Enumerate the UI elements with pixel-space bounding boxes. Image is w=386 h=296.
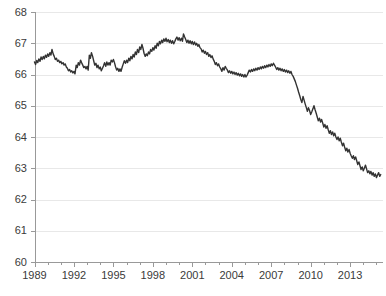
y-tick-label: 65 [1, 100, 27, 111]
x-tick-label: 2007 [251, 270, 291, 281]
y-tick-label: 68 [1, 7, 27, 18]
gridlines [35, 13, 384, 232]
x-tick-label: 2013 [330, 270, 370, 281]
y-tick-label: 62 [1, 194, 27, 205]
y-tick-label: 67 [1, 38, 27, 49]
y-tick-label: 63 [1, 163, 27, 174]
y-tick-label: 64 [1, 132, 27, 143]
data-series-line [35, 34, 381, 178]
y-tick-label: 60 [1, 257, 27, 268]
x-tick-label: 2004 [212, 270, 252, 281]
y-tick-label: 66 [1, 69, 27, 80]
y-major-ticks [31, 13, 35, 263]
x-tick-label: 1998 [133, 270, 173, 281]
x-tick-label: 1995 [93, 270, 133, 281]
x-tick-label: 1989 [15, 270, 55, 281]
chart-plot-area [0, 0, 386, 296]
x-tick-label: 2001 [172, 270, 212, 281]
x-tick-label: 2010 [291, 270, 331, 281]
y-tick-label: 61 [1, 225, 27, 236]
x-tick-label: 1992 [54, 270, 94, 281]
line-chart: 606162636465666768 198919921995199820012… [0, 0, 386, 296]
